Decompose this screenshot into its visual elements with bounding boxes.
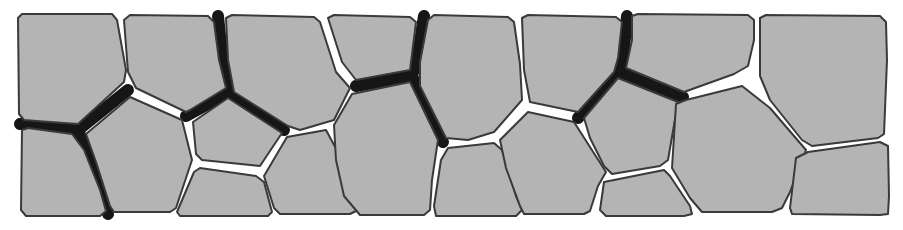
cell: [790, 142, 889, 215]
cell-tissue-diagram: [0, 0, 903, 230]
cells-layer: [18, 14, 889, 216]
cell: [124, 15, 226, 112]
cell: [328, 15, 416, 80]
cell: [177, 168, 272, 216]
